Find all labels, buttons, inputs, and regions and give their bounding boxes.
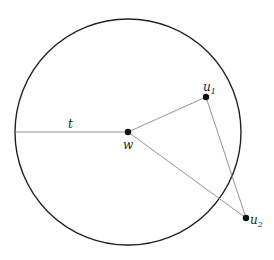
point-u1 <box>203 94 209 100</box>
diagram: t w u1 u2 <box>0 0 274 260</box>
label-w: w <box>123 138 134 152</box>
label-u1: u1 <box>203 80 216 96</box>
point-w <box>125 129 131 135</box>
point-u2 <box>243 215 249 221</box>
edge-w-u2 <box>128 132 246 218</box>
label-t: t <box>68 117 73 131</box>
label-u2: u2 <box>250 213 263 229</box>
edge-w-u1 <box>128 97 206 132</box>
